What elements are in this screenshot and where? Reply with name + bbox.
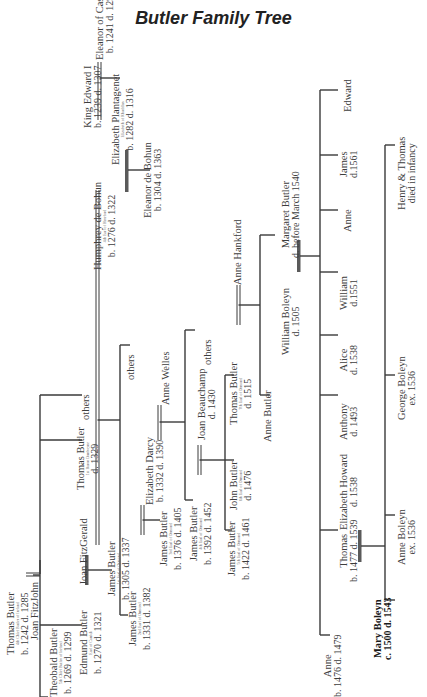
person-others: others xyxy=(125,354,136,380)
person-name: others xyxy=(125,354,136,380)
person-william-boleyn: William Boleyn d. 1505 xyxy=(280,288,302,355)
person-dates: d. 1505 xyxy=(291,288,302,355)
person-dates: b. 1476 d. 1479 xyxy=(333,635,344,697)
person-james: James d.1561 xyxy=(338,151,360,179)
person-anne-hankford: Anne Hankford xyxy=(232,219,243,285)
person-margaret-butler: Margaret Butler d. before March 1540 xyxy=(280,171,302,258)
person-dates: b. 1331 d. 1382 xyxy=(142,588,153,651)
person-anne: Anne b. 1476 d. 1479 xyxy=(322,635,344,697)
person-dates: b. 1392 d. 1452 xyxy=(203,503,214,566)
person-dates: b. 1422 d. 1461 xyxy=(241,518,252,581)
person-joan-beauchamp: Joan Beauchamp d. 1430 xyxy=(196,369,218,440)
person-thomas-butler-4th-chief: Thomas Butler 4th Chief Butler of Irelan… xyxy=(5,592,31,655)
person-james-butler-2nd-earl: James Butler 2nd Earl of Ormond b. 1331 … xyxy=(127,588,153,651)
person-anne-welles: Anne Welles xyxy=(160,352,171,406)
person-theobald-butler: Theobald Butler 5th Chief Butler of Irel… xyxy=(48,628,74,697)
person-joan-fitzgerald: Joan FitzGerald xyxy=(78,518,89,585)
person-name: Anne Butler xyxy=(262,390,273,442)
person-others: others xyxy=(80,394,91,420)
person-mary-boleyn: Mary Boleyn c. 1500 d. 1543 xyxy=(372,598,394,661)
person-name: others xyxy=(202,339,213,365)
person-dates: b. 1282 d. 1316 xyxy=(125,74,136,165)
person-dates: d. 1538 xyxy=(349,345,360,375)
person-george-boleyn: George Boleyn ex. 1536 xyxy=(396,356,418,420)
person-henry-and-thomas: Henry & Thomas died in infancy xyxy=(396,137,418,210)
person-eleanor-of-castile: Eleanor of Castile b. 1241 d. 1290 xyxy=(94,0,116,60)
person-james-butler-3rd-earl: James Butler 3rd Earl of Ormond b. 1376 … xyxy=(158,508,184,571)
person-john-butler-6th-earl: John Butler 6th Earl of Ormond d. 1476 xyxy=(228,461,254,510)
person-anthony: Anthony d. 1493 xyxy=(338,403,360,440)
person-anne-butler: Anne Butler xyxy=(262,390,273,442)
person-name: Joan FitzGerald xyxy=(78,518,89,585)
person-dates: b. 1241 d. 1290 xyxy=(105,0,116,60)
person-dates: d.1561 xyxy=(349,151,360,179)
tree-connectors xyxy=(0,0,427,697)
person-humphrey-de-bohun: Humphrey de Bohun 4th Earl of Hereford b… xyxy=(92,182,118,270)
person-elizabeth-howard: Elizabeth Howard d. 1538 xyxy=(338,454,360,530)
person-elizabeth-plantagenet: Elizabeth Plantagenet Elizabeth of Rhudd… xyxy=(110,74,136,165)
person-dates: d. 1430 xyxy=(207,369,218,440)
person-dates: d. 1476 xyxy=(243,461,254,510)
person-thomas-butler-7th-earl: Thomas Butler 7th Earl of Ormond d. 1515 xyxy=(228,362,254,425)
person-dates: d. 1329 xyxy=(90,427,101,490)
person-joan-fitzjohn: Joan FitzJohn xyxy=(29,582,40,640)
person-name: Joan FitzJohn xyxy=(29,582,40,640)
person-dates: b. 1239 d. 1307 xyxy=(93,66,104,129)
person-edmund-butler: Edmund Butler Earl of Carrick b. 1270 d.… xyxy=(78,611,104,675)
person-name: Anne Welles xyxy=(160,352,171,406)
person-dates: d. 1493 xyxy=(349,403,360,440)
person-dates: d. before March 1540 xyxy=(291,171,302,258)
person-dates: b. 1270 d. 1321 xyxy=(93,611,104,675)
person-others: others xyxy=(202,339,213,365)
person-name: others xyxy=(80,394,91,420)
person-dates: c. 1500 d. 1543 xyxy=(383,598,394,661)
person-william: William d.1551 xyxy=(338,276,360,310)
person-dates: b. 1276 d. 1322 xyxy=(107,182,118,270)
person-dates: ex. 1536 xyxy=(407,509,418,565)
person-dates: d. 1538 xyxy=(349,454,360,530)
person-elizabeth-darcy: Elizabeth Darcy b. 1332 d. 1390 xyxy=(144,437,166,505)
person-james-butler-4th-earl: James Butler 4th Earl of Ormond b. 1392 … xyxy=(188,503,214,566)
person-james-butler-5th-earl: James Butler 5th Earl of Ormond b. 1422 … xyxy=(226,518,252,581)
person-dates: d. 1515 xyxy=(243,362,254,425)
person-name: Anne xyxy=(342,209,353,232)
person-anne: Anne xyxy=(342,209,353,232)
person-name: Edward xyxy=(342,79,353,112)
person-anne-boleyn: Anne Boleyn ex. 1536 xyxy=(396,509,418,565)
person-eleanor-de-bohun: Eleanor de Bohun b. 1304 d. 1363 xyxy=(142,142,164,218)
person-dates: b. 1376 d. 1405 xyxy=(173,508,184,571)
person-dates: b. 1332 d. 1390 xyxy=(155,437,166,505)
person-name: Anne Hankford xyxy=(232,219,243,285)
person-dates: d.1551 xyxy=(349,276,360,310)
person-dates: died in infancy xyxy=(407,137,418,210)
person-dates: b. 1269 d. 1299 xyxy=(63,628,74,697)
person-king-edward-i: King Edward I b. 1239 d. 1307 xyxy=(82,66,104,129)
person-alice: Alice d. 1538 xyxy=(338,345,360,375)
person-dates: ex. 1536 xyxy=(407,356,418,420)
person-dates: b. 1304 d. 1363 xyxy=(153,142,164,218)
person-thomas-butler-dunboyne: Thomas Butler 1st Baron Dunboyne d. 1329 xyxy=(75,427,101,490)
person-edward: Edward xyxy=(342,79,353,112)
